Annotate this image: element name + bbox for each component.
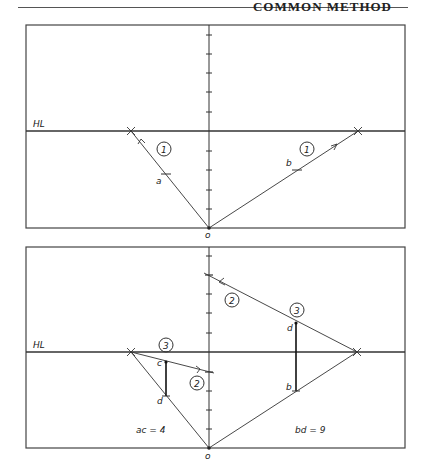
top-point-a-label: a (156, 176, 162, 186)
bottom-point-c-dot (164, 360, 167, 363)
bottom-step-3-right-label: 3 (294, 306, 300, 316)
top-right-line-1 (209, 131, 358, 228)
top-left-arrow-icon (138, 139, 145, 144)
bottom-right-arrow-icon (219, 278, 225, 285)
bottom-step-2-right-label: 2 (229, 296, 235, 306)
bottom-point-c-label: c (157, 358, 162, 368)
top-step-1-right-label: 1 (304, 145, 310, 155)
bottom-origin-dot (207, 446, 211, 450)
top-point-b-label: b (286, 158, 292, 168)
bottom-left-arrow-icon (196, 366, 200, 373)
bottom-right-line-2 (204, 273, 357, 352)
top-panel (26, 25, 405, 230)
bottom-panel (26, 247, 405, 450)
bottom-step-3-left-label: 3 (163, 341, 169, 351)
top-horizon-label: HL (33, 119, 45, 129)
bottom-step-2-left-label: 2 (194, 379, 200, 389)
perspective-diagram: HL o a b 1 1 (0, 0, 424, 470)
bottom-point-d-left-label: d (157, 396, 163, 406)
bottom-point-d-right-dot (294, 321, 297, 324)
top-origin-label: o (205, 230, 211, 240)
bottom-left-line-2 (131, 352, 214, 373)
bottom-measure-bd: bd = 9 (295, 425, 326, 435)
top-step-1-left-label: 1 (161, 145, 167, 155)
bottom-horizon-label: HL (33, 340, 45, 350)
bottom-point-d-right-label: d (287, 323, 293, 333)
bottom-point-b-label: b (286, 382, 292, 392)
top-panel-frame (26, 25, 405, 228)
bottom-right-line-1 (209, 352, 357, 448)
bottom-measure-ac: ac = 4 (136, 425, 166, 435)
bottom-origin-label: o (205, 451, 211, 461)
